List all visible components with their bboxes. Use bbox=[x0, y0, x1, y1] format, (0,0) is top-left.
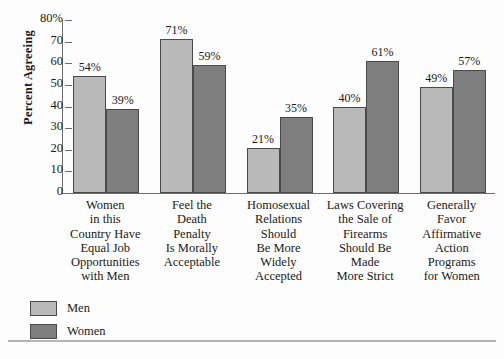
bar-men: 49% bbox=[420, 87, 453, 193]
bar-women: 61% bbox=[366, 61, 399, 193]
category-label-line: Death bbox=[143, 212, 242, 226]
bar-women: 57% bbox=[453, 70, 486, 193]
category-label: HomosexualRelationsShouldBe MoreWidelyAc… bbox=[229, 198, 328, 284]
x-axis-category-labels: Womenin thisCountry HaveEqual JobOpportu… bbox=[62, 198, 495, 290]
page-divider-rule bbox=[8, 340, 496, 342]
bar-value-label: 57% bbox=[458, 54, 480, 69]
bar-value-label: 21% bbox=[252, 132, 274, 147]
x-axis-line bbox=[62, 193, 495, 194]
bar-group: 40%61% bbox=[333, 20, 399, 193]
category-label: Feel theDeathPenaltyIs MorallyAcceptable bbox=[143, 198, 242, 269]
legend-item-men[interactable]: Men bbox=[30, 298, 210, 318]
bar-women: 39% bbox=[106, 109, 139, 193]
bar-group: 49%57% bbox=[420, 20, 486, 193]
category-label-line: with Men bbox=[56, 269, 155, 283]
category-label-line: Generally bbox=[402, 198, 501, 212]
category-label-line: for Women bbox=[402, 269, 501, 283]
category-label-line: Feel the bbox=[143, 198, 242, 212]
category-label-line: Country Have bbox=[56, 227, 155, 241]
category-label: Laws Coveringthe Sale ofFirearmsShould B… bbox=[316, 198, 415, 284]
bar-value-label: 35% bbox=[285, 101, 307, 116]
category-label: Womenin thisCountry HaveEqual JobOpportu… bbox=[56, 198, 155, 284]
category-label-line: Programs bbox=[402, 255, 501, 269]
category-label-line: Should Be bbox=[316, 241, 415, 255]
bar-women: 59% bbox=[193, 65, 226, 193]
category-label-line: Affirmative bbox=[402, 227, 501, 241]
category-label-line: Equal Job bbox=[56, 241, 155, 255]
category-label-line: the Sale of bbox=[316, 212, 415, 226]
category-label-line: Should bbox=[229, 227, 328, 241]
bar-value-label: 71% bbox=[165, 23, 187, 38]
bar-value-label: 40% bbox=[339, 91, 361, 106]
bar-value-label: 61% bbox=[372, 45, 394, 60]
bar-group: 21%35% bbox=[247, 20, 313, 193]
legend-label: Women bbox=[67, 324, 106, 339]
category-label-line: Action bbox=[402, 241, 501, 255]
bar-men: 21% bbox=[247, 148, 280, 193]
plot-area: 80%706050403020100 54%39%71%59%21%35%40%… bbox=[62, 20, 495, 193]
category-label-line: More Strict bbox=[316, 269, 415, 283]
bar-men: 40% bbox=[333, 107, 366, 194]
category-label-line: Homosexual bbox=[229, 198, 328, 212]
category-label-line: Penalty bbox=[143, 227, 242, 241]
y-tick-label: 80% bbox=[40, 11, 63, 26]
legend-label: Men bbox=[67, 301, 90, 316]
y-axis-title: Percent Agreeing bbox=[21, 8, 36, 148]
bar-women: 35% bbox=[280, 117, 313, 193]
legend: MenWomen bbox=[30, 298, 210, 344]
bar-men: 54% bbox=[73, 76, 106, 193]
category-label-line: Women bbox=[56, 198, 155, 212]
category-label-line: Favor bbox=[402, 212, 501, 226]
category-label-line: Made bbox=[316, 255, 415, 269]
bar-group: 71%59% bbox=[160, 20, 226, 193]
legend-swatch bbox=[30, 324, 57, 339]
category-label-line: Relations bbox=[229, 212, 328, 226]
y-tick-mark bbox=[65, 193, 72, 194]
bar-value-label: 59% bbox=[198, 49, 220, 64]
bar-chart-figure: Percent Agreeing 80%706050403020100 54%3… bbox=[0, 0, 504, 359]
category-label: GenerallyFavorAffirmativeActionProgramsf… bbox=[402, 198, 501, 284]
bar-men: 71% bbox=[160, 39, 193, 193]
category-label-line: Accepted bbox=[229, 269, 328, 283]
category-label-line: Acceptable bbox=[143, 255, 242, 269]
category-label-line: Widely bbox=[229, 255, 328, 269]
category-label-line: Be More bbox=[229, 241, 328, 255]
bar-value-label: 54% bbox=[79, 60, 101, 75]
category-label-line: Is Morally bbox=[143, 241, 242, 255]
category-label-line: in this bbox=[56, 212, 155, 226]
category-label-line: Opportunities bbox=[56, 255, 155, 269]
bar-value-label: 49% bbox=[425, 71, 447, 86]
legend-item-women[interactable]: Women bbox=[30, 321, 210, 341]
category-label-line: Firearms bbox=[316, 227, 415, 241]
bars-layer: 54%39%71%59%21%35%40%61%49%57% bbox=[62, 20, 495, 193]
bar-group: 54%39% bbox=[73, 20, 139, 193]
legend-swatch bbox=[30, 301, 57, 316]
bar-value-label: 39% bbox=[112, 93, 134, 108]
category-label-line: Laws Covering bbox=[316, 198, 415, 212]
